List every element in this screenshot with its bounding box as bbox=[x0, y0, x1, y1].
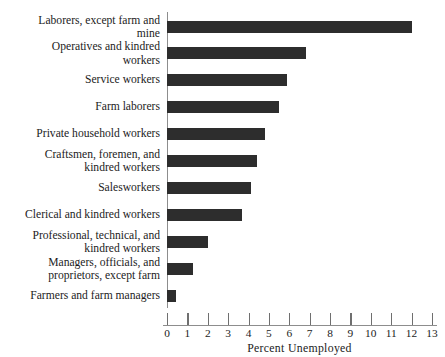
x-axis-tick bbox=[249, 313, 250, 325]
bar-row: Farm laborers bbox=[0, 94, 445, 121]
bar-category-label: Farmers and farm managers bbox=[0, 289, 160, 302]
bar bbox=[167, 101, 279, 113]
bar-category-label: Farm laborers bbox=[0, 101, 160, 114]
x-axis-tick bbox=[269, 313, 270, 325]
bar bbox=[167, 74, 287, 86]
bar-row: Clerical and kindred workers bbox=[0, 201, 445, 228]
bar bbox=[167, 47, 306, 59]
bar-row: Service workers bbox=[0, 67, 445, 94]
x-axis: 012345678910111213 Percent Unemployed bbox=[0, 308, 445, 357]
bar-category-label: Private household workers bbox=[0, 127, 160, 140]
bar bbox=[167, 155, 257, 167]
bar-row: Farmers and farm managers bbox=[0, 282, 445, 309]
unemployment-bar-chart: Laborers, except farm and mineOperatives… bbox=[0, 0, 445, 357]
x-axis-tick bbox=[289, 313, 290, 325]
bar-row: Private household workers bbox=[0, 121, 445, 148]
bar-row: Craftsmen, foremen, and kindred workers bbox=[0, 148, 445, 175]
x-axis-tick bbox=[330, 313, 331, 325]
bar-row: Professional, technical, and kindred wor… bbox=[0, 228, 445, 255]
x-axis-title: Percent Unemployed bbox=[167, 341, 432, 356]
x-axis-tick bbox=[412, 313, 413, 325]
bar-category-label: Professional, technical, and kindred wor… bbox=[0, 228, 160, 254]
plot-area: Laborers, except farm and mineOperatives… bbox=[0, 12, 445, 308]
bar-row: Laborers, except farm and mine bbox=[0, 13, 445, 40]
x-axis-tick bbox=[371, 313, 372, 325]
bar bbox=[167, 236, 208, 248]
bar-category-label: Managers, officials, and proprietors, ex… bbox=[0, 255, 160, 281]
x-axis-tick bbox=[432, 313, 433, 325]
x-axis-tick bbox=[187, 313, 188, 325]
bar-category-label: Clerical and kindred workers bbox=[0, 208, 160, 221]
bar-row: Salesworkers bbox=[0, 174, 445, 201]
x-axis-tick-label: 13 bbox=[417, 327, 445, 340]
bar-category-label: Service workers bbox=[0, 74, 160, 87]
x-axis-line bbox=[163, 325, 437, 326]
bar-rows: Laborers, except farm and mineOperatives… bbox=[0, 12, 445, 308]
x-axis-tick bbox=[167, 313, 168, 325]
bar-category-label: Craftsmen, foremen, and kindred workers bbox=[0, 148, 160, 174]
x-axis-tick bbox=[310, 313, 311, 325]
bar bbox=[167, 21, 412, 33]
x-axis-tick bbox=[391, 313, 392, 325]
bar-category-label: Operatives and kindred workers bbox=[0, 40, 160, 66]
x-axis-tick bbox=[350, 313, 351, 325]
bar-row: Managers, officials, and proprietors, ex… bbox=[0, 255, 445, 282]
bar-category-label: Laborers, except farm and mine bbox=[0, 13, 160, 39]
bar bbox=[167, 263, 193, 275]
x-axis-tick bbox=[228, 313, 229, 325]
bar bbox=[167, 290, 176, 302]
bar-category-label: Salesworkers bbox=[0, 181, 160, 194]
bar-row: Operatives and kindred workers bbox=[0, 40, 445, 67]
bar bbox=[167, 182, 251, 194]
x-axis-tick bbox=[208, 313, 209, 325]
bar bbox=[167, 209, 242, 221]
bar bbox=[167, 128, 265, 140]
